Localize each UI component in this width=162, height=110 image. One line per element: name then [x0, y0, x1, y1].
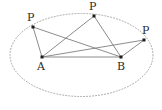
vertex-point-p-right [143, 39, 146, 42]
seg-pright-b [121, 40, 144, 57]
vertex-label-p-right: P [142, 25, 149, 36]
vertex-label-a: A [37, 61, 45, 72]
seg-pleft-b [33, 27, 121, 57]
geometry-figure: PPPAB [0, 0, 162, 110]
vertex-point-a [41, 56, 44, 59]
vertex-point-p-top [93, 15, 96, 18]
vertex-point-p-left [32, 26, 35, 29]
seg-pright-a [42, 40, 144, 57]
vertex-point-b [120, 56, 123, 59]
vertex-label-b: B [117, 61, 125, 72]
seg-ptop-b [94, 16, 121, 57]
vertex-label-p-left: P [27, 12, 34, 23]
vertex-label-p-top: P [89, 1, 96, 12]
figure-canvas [0, 0, 162, 110]
seg-ptop-a [42, 16, 94, 57]
segments-group [33, 16, 144, 57]
seg-pleft-a [33, 27, 42, 57]
